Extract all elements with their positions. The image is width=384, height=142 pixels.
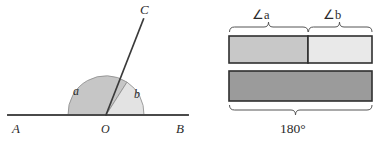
brace-a-label: ∠a bbox=[252, 8, 270, 22]
brace-angle-a bbox=[230, 22, 309, 32]
point-c-label: C bbox=[140, 2, 149, 17]
geometry-figure: A B C O a b ∠a ∠b 180° bbox=[0, 0, 384, 142]
angle-a-label: a bbox=[73, 84, 79, 98]
point-b-label: B bbox=[176, 121, 184, 136]
vertex-o-label: O bbox=[101, 122, 110, 136]
bar-total-180 bbox=[229, 71, 372, 101]
point-a-label: A bbox=[11, 121, 20, 136]
brace-total bbox=[230, 105, 373, 115]
total-label: 180° bbox=[280, 121, 306, 136]
brace-b-label: ∠b bbox=[323, 8, 341, 22]
brace-angle-b bbox=[309, 22, 373, 32]
figure-canvas: A B C O a b ∠a ∠b 180° bbox=[0, 0, 384, 142]
bar-segment-angle-a bbox=[229, 36, 308, 63]
bar-segment-angle-b bbox=[308, 36, 372, 63]
angle-b-label: b bbox=[134, 87, 140, 101]
